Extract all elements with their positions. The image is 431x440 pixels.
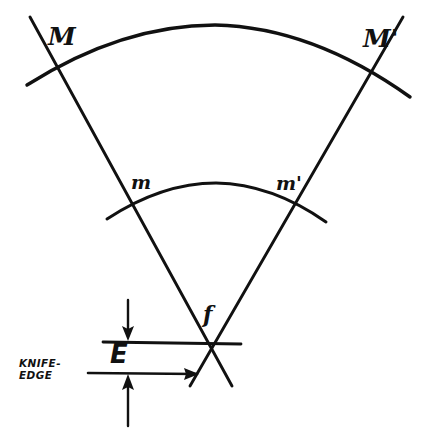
- diagram-svg: [0, 0, 431, 440]
- label-inner-right: m': [276, 174, 302, 193]
- right-ray-line: [190, 17, 403, 386]
- label-inner-left: m: [131, 173, 151, 192]
- knife-edge-pointer-arrowhead: [184, 368, 199, 380]
- label-focus-point: f: [203, 303, 212, 325]
- label-mirror-left: M: [48, 24, 76, 49]
- label-knife-edge: KNIFE-EDGE: [19, 357, 61, 382]
- figure-canvas: M M' m m' f E KNIFE-EDGE: [0, 0, 431, 440]
- label-mirror-right: M': [363, 26, 398, 51]
- outer-mirror-arc: [27, 25, 410, 97]
- label-knife-edge-line1: KNIFE-: [19, 357, 61, 369]
- knife-edge-pointer-line: [88, 373, 196, 374]
- label-knife-edge-line2: EDGE: [19, 369, 52, 381]
- label-offset-distance: E: [110, 341, 128, 367]
